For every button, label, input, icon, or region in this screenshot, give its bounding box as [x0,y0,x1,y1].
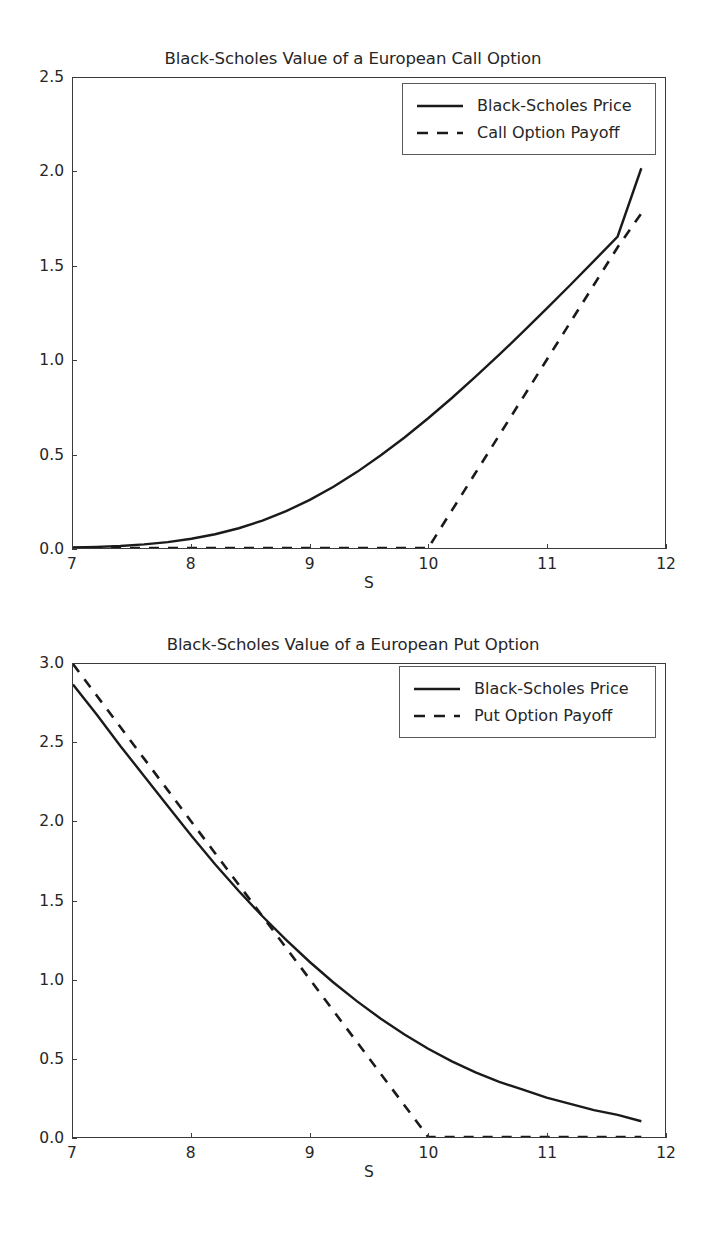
solid-line-icon [412,682,462,696]
y-tick-mark [72,1138,77,1139]
x-tick-label: 11 [537,1144,557,1162]
put-legend: Black-Scholes Price Put Option Payoff [399,666,656,738]
y-tick-label: 1.0 [6,351,64,369]
put-x-axis-label: S [72,1163,666,1181]
x-tick-mark [310,544,311,549]
put-option-figure: Black-Scholes Value of a European Put Op… [0,586,706,1238]
x-tick-label: 10 [419,1144,439,1162]
y-tick-label: 0.0 [6,1129,64,1147]
legend-label-payoff: Put Option Payoff [474,706,612,725]
y-tick-mark [72,1059,77,1060]
series-dashed [73,213,641,548]
x-tick-label: 9 [305,555,315,573]
call-option-figure: Black-Scholes Value of a European Call O… [0,0,706,620]
legend-item-price: Black-Scholes Price [415,92,641,119]
y-tick-mark [72,980,77,981]
legend-label-price: Black-Scholes Price [477,96,632,115]
solid-line-icon [415,99,465,113]
y-tick-label: 2.0 [6,162,64,180]
y-tick-mark [72,663,77,664]
y-tick-mark [72,77,77,78]
y-tick-mark [72,171,77,172]
series-solid [73,168,641,547]
y-tick-mark [72,360,77,361]
x-tick-mark [72,544,73,549]
x-tick-mark [428,1133,429,1138]
legend-item-payoff: Put Option Payoff [412,702,641,729]
y-tick-mark [72,455,77,456]
x-tick-label: 8 [186,555,196,573]
x-tick-label: 7 [67,555,77,573]
x-tick-label: 9 [305,1144,315,1162]
y-tick-mark [72,549,77,550]
y-tick-label: 2.0 [6,812,64,830]
y-tick-label: 0.0 [6,540,64,558]
legend-label-price: Black-Scholes Price [474,679,629,698]
y-tick-label: 0.5 [6,1050,64,1068]
y-tick-label: 0.5 [6,446,64,464]
x-tick-mark [547,544,548,549]
dashed-line-icon [412,709,462,723]
x-tick-mark [666,1133,667,1138]
y-tick-label: 2.5 [6,733,64,751]
x-tick-mark [191,544,192,549]
x-tick-mark [547,1133,548,1138]
x-tick-mark [310,1133,311,1138]
series-solid [73,684,641,1121]
y-tick-mark [72,266,77,267]
y-tick-mark [72,901,77,902]
dashed-line-icon [415,126,465,140]
call-chart-title: Black-Scholes Value of a European Call O… [0,49,706,68]
y-tick-label: 3.0 [6,654,64,672]
legend-item-payoff: Call Option Payoff [415,119,641,146]
y-tick-label: 1.0 [6,971,64,989]
y-tick-mark [72,742,77,743]
y-tick-label: 1.5 [6,257,64,275]
x-tick-mark [428,544,429,549]
legend-label-payoff: Call Option Payoff [477,123,619,142]
y-tick-mark [72,821,77,822]
put-chart-title: Black-Scholes Value of a European Put Op… [0,635,706,654]
x-tick-mark [72,1133,73,1138]
x-tick-mark [191,1133,192,1138]
call-legend: Black-Scholes Price Call Option Payoff [402,83,656,155]
x-tick-label: 10 [419,555,439,573]
y-tick-label: 2.5 [6,68,64,86]
x-tick-label: 12 [656,555,676,573]
x-tick-label: 12 [656,1144,676,1162]
x-tick-label: 8 [186,1144,196,1162]
y-tick-label: 1.5 [6,892,64,910]
x-tick-label: 7 [67,1144,77,1162]
x-tick-mark [666,544,667,549]
legend-item-price: Black-Scholes Price [412,675,641,702]
x-tick-label: 11 [537,555,557,573]
